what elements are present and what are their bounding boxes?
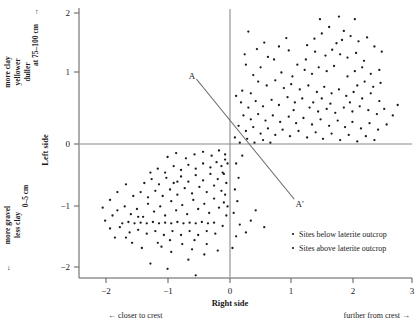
x-axis-ticks	[106, 278, 412, 283]
data-point	[280, 71, 282, 73]
data-point	[187, 181, 189, 183]
data-point	[235, 235, 237, 237]
data-point	[170, 251, 172, 253]
data-point	[195, 222, 197, 224]
data-point	[202, 162, 204, 164]
data-point	[195, 274, 197, 276]
x-tick-label-0: 0	[228, 286, 233, 296]
data-point	[125, 236, 127, 238]
data-point	[356, 84, 358, 86]
data-point	[366, 36, 368, 38]
data-point	[226, 205, 228, 207]
data-point	[373, 45, 375, 47]
data-point	[351, 121, 353, 123]
data-point	[176, 181, 178, 183]
data-point	[323, 86, 325, 88]
data-point	[235, 162, 237, 164]
data-point	[348, 134, 350, 136]
data-point	[175, 152, 177, 154]
scatter-plot-figure: 2 1 0 −1 −2 −2 −1 0 1 2 3	[0, 0, 419, 324]
data-point	[321, 97, 323, 99]
y-tick-label-minus1: −1	[60, 201, 70, 211]
x-tick-label-minus2: −2	[101, 286, 111, 296]
data-point	[169, 188, 171, 190]
data-point	[372, 86, 374, 88]
data-point	[102, 207, 104, 209]
data-point	[315, 131, 317, 133]
data-point	[127, 221, 129, 223]
legend: Sites below laterite outcrop Sites above…	[292, 230, 387, 253]
data-point	[368, 122, 370, 124]
data-point	[370, 73, 372, 75]
data-point	[301, 97, 303, 99]
data-point	[215, 161, 217, 163]
series-sites-below-laterite-outcrop	[234, 15, 399, 143]
data-point	[241, 90, 243, 92]
data-point	[335, 42, 337, 44]
data-point	[319, 118, 321, 120]
data-point	[293, 109, 295, 111]
data-point	[141, 247, 143, 249]
data-point	[173, 182, 175, 184]
y-lower-arrow-icon: ←	[3, 264, 12, 272]
legend-marker-below-icon	[292, 233, 294, 235]
y-tick-label-2: 2	[66, 8, 71, 18]
data-point	[269, 142, 271, 144]
data-point	[250, 118, 252, 120]
data-point	[314, 51, 316, 53]
data-point	[175, 209, 177, 211]
data-point	[311, 73, 313, 75]
data-point	[198, 186, 200, 188]
data-point	[163, 234, 165, 236]
data-point	[152, 221, 154, 223]
data-point	[213, 222, 215, 224]
data-point	[263, 226, 265, 228]
data-point	[176, 221, 178, 223]
data-point	[202, 151, 204, 153]
data-point	[361, 97, 363, 99]
data-point	[142, 216, 144, 218]
data-point	[294, 101, 296, 103]
data-point	[181, 204, 183, 206]
data-point	[339, 53, 341, 55]
data-point	[169, 239, 171, 241]
data-point	[255, 209, 257, 211]
data-point	[184, 187, 186, 189]
data-point	[188, 222, 190, 224]
data-point	[297, 130, 299, 132]
data-point	[173, 165, 175, 167]
data-point	[324, 54, 326, 56]
data-point	[397, 104, 399, 106]
data-point	[316, 91, 318, 93]
data-point	[213, 197, 215, 199]
data-point	[203, 203, 205, 205]
data-point	[224, 194, 226, 196]
data-point	[259, 66, 261, 68]
data-point	[136, 208, 138, 210]
data-point	[343, 106, 345, 108]
data-point	[137, 229, 139, 231]
data-point	[146, 222, 148, 224]
x-tick-label-3: 3	[410, 286, 415, 296]
data-point	[223, 201, 225, 203]
data-point	[164, 214, 166, 216]
data-point	[237, 177, 239, 179]
data-point	[164, 171, 166, 173]
data-point	[351, 110, 353, 112]
data-point	[256, 48, 258, 50]
data-point	[137, 216, 139, 218]
data-point	[234, 188, 236, 190]
data-point	[378, 100, 380, 102]
data-point	[330, 92, 332, 94]
data-point	[383, 108, 385, 110]
data-point	[128, 231, 130, 233]
data-point	[259, 132, 261, 134]
data-point	[213, 184, 215, 186]
data-point	[349, 35, 351, 37]
data-point	[224, 158, 226, 160]
data-point	[234, 136, 236, 138]
data-point	[288, 116, 290, 118]
x-direction-label-left: ← closer to crest	[108, 311, 163, 320]
data-point	[157, 168, 159, 170]
data-point	[295, 122, 297, 124]
